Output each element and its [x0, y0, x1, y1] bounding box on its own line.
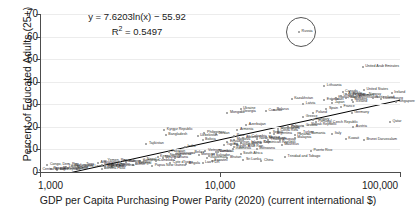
x-tick-label: 100,000 [362, 180, 398, 191]
y-tick-label: 0 [14, 167, 38, 177]
y-tick-label: 60 [14, 32, 38, 42]
y-tick-label: 30 [14, 99, 38, 109]
y-tick-label: 10 [14, 144, 38, 154]
y-tick-label: 50 [14, 54, 38, 64]
gridline [40, 127, 400, 128]
y-axis-tick-labels: 010203040506070 [12, 0, 38, 214]
y-tick-label: 20 [14, 122, 38, 132]
y-tick-label: 40 [14, 77, 38, 87]
scatter-chart: Percent of Educated Adults (25+) 0102030… [0, 0, 416, 214]
x-tick-label: 1,000 [38, 180, 63, 191]
y-tick-mark [36, 104, 41, 105]
gridline [40, 149, 400, 150]
y-tick-mark [36, 14, 41, 15]
y-tick-label: 70 [14, 9, 38, 19]
r-squared-text: R2 = 0.5497 [62, 23, 212, 38]
equation-text: y = 7.6203ln(x) − 55.92 [88, 11, 186, 22]
y-tick-mark [36, 59, 41, 60]
y-tick-mark [36, 82, 41, 83]
gridline [40, 104, 400, 105]
x-tick-label: 10,000 [205, 180, 236, 191]
trendline-path [43, 100, 400, 172]
trendline-equation-annotation: y = 7.6203ln(x) − 55.92 R2 = 0.5497 [62, 11, 212, 38]
gridline [40, 59, 400, 60]
data-point-label: Singapore [398, 100, 414, 104]
x-tick-mark [40, 172, 41, 177]
x-tick-mark [400, 172, 401, 177]
y-tick-mark [36, 127, 41, 128]
y-tick-mark [36, 37, 41, 38]
gridline [40, 82, 400, 83]
x-tick-mark [220, 172, 221, 177]
russia-highlight-circle [286, 17, 316, 47]
x-axis-title: GDP per Capita Purchasing Power Parity (… [0, 194, 416, 206]
y-tick-mark [36, 149, 41, 150]
